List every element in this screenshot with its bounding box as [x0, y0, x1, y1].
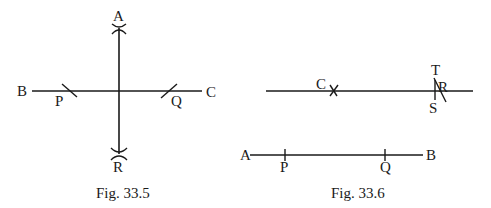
label-p: P — [280, 159, 288, 175]
geometry-figures: A B C P Q R Fig. 33.5 C T R S A P Q B Fi… — [0, 0, 491, 208]
label-c: C — [316, 76, 326, 92]
arc-mark-a-1 — [112, 24, 126, 27]
figure-33-5: A B C P Q R Fig. 33.5 — [17, 8, 216, 201]
label-a: A — [240, 147, 251, 163]
label-q: Q — [380, 159, 391, 175]
label-q: Q — [171, 93, 182, 109]
label-t: T — [431, 62, 440, 78]
caption-fig-33-6: Fig. 33.6 — [331, 185, 385, 201]
figure-33-6: C T R S A P Q B Fig. 33.6 — [240, 62, 473, 201]
label-c: C — [206, 84, 216, 100]
label-r: R — [438, 79, 448, 95]
label-s: S — [429, 100, 437, 116]
label-a: A — [113, 8, 124, 24]
caption-fig-33-5: Fig. 33.5 — [96, 185, 150, 201]
label-r: R — [113, 159, 123, 175]
label-b: B — [17, 83, 27, 99]
label-b: B — [426, 147, 436, 163]
label-p: P — [55, 93, 63, 109]
